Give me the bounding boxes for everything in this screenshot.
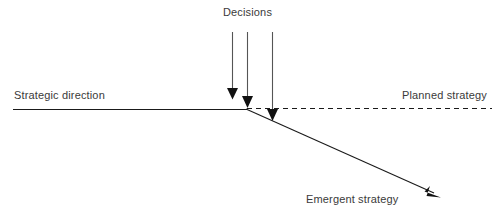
planned-strategy-label: Planned strategy [402,89,487,102]
emergent-strategy-arrowhead [425,186,442,198]
decision-arrow-2-head [242,96,253,108]
emergent-strategy-label: Emergent strategy [306,193,398,206]
decisions-label: Decisions [223,6,272,19]
diagram-canvas [0,0,498,223]
emergent-strategy-line [246,109,434,193]
strategy-diagram: Decisions Strategic direction Planned st… [0,0,498,223]
strategic-direction-label: Strategic direction [14,89,105,102]
decision-arrow-1-head [227,88,238,100]
